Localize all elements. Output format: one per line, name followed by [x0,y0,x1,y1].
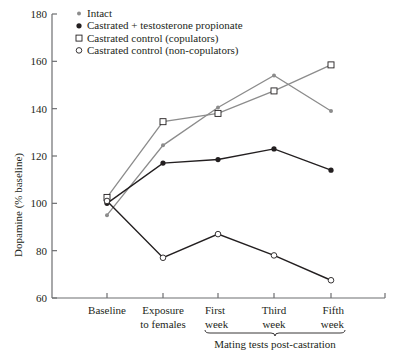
x-tick-label: Fifth [323,304,345,316]
y-axis: 6080100120140160180 [31,8,58,304]
legend-item: Castrated control (copulators) [76,32,219,45]
legend-label: Castrated control (copulators) [87,32,219,45]
legend-item: Castrated + testosterone propionate [76,19,242,31]
x-tick-label: week [262,318,286,330]
x-tick-label: Baseline [88,304,126,316]
x-tick-label: Third [262,304,287,316]
brace-icon [205,330,345,336]
y-tick-label: 140 [31,103,48,115]
x-tick-label: to females [140,318,186,330]
series-line [107,65,331,198]
filled-circle-marker [76,23,81,28]
open-square-marker [271,88,277,94]
x-tick-label: First [205,304,225,316]
open-square-marker [215,110,221,116]
open-square-marker [328,62,334,68]
open-square-marker [160,119,166,125]
gray-dot-marker [216,105,220,109]
legend-label: Castrated control (non-copulators) [87,44,239,57]
open-circle-marker [215,231,221,237]
open-square-marker [76,35,82,41]
open-circle-marker [76,48,82,54]
legend: IntactCastrated + testosterone propionat… [76,7,243,57]
x-axis-bracket: Mating tests post-castration [205,330,345,350]
series-line [107,149,331,203]
gray-dot-marker [105,213,109,217]
open-circle-marker [328,277,334,283]
y-tick-label: 60 [36,292,48,304]
y-tick-label: 180 [31,8,48,20]
x-axis: BaselineExposureto femalesFirstweekThird… [52,293,385,330]
legend-item: Castrated control (non-copulators) [76,44,239,57]
x-tick-label: week [321,318,345,330]
filled-circle-marker [328,168,333,173]
legend-label: Castrated + testosterone propionate [87,19,243,31]
x-tick-label: week [205,318,229,330]
x-tick-label: Exposure [142,304,184,316]
legend-label: Intact [87,7,112,19]
open-circle-marker [104,198,110,204]
series-line [107,201,331,280]
y-tick-label: 120 [31,150,48,162]
legend-item: Intact [77,7,112,19]
gray-dot-marker [272,74,276,78]
open-circle-marker [271,253,277,259]
gray-dot-marker [329,109,333,113]
filled-circle-marker [271,146,276,151]
series-intact [105,74,333,218]
gray-dot-marker [77,12,81,16]
gray-dot-marker [161,143,165,147]
bracket-label: Mating tests post-castration [214,338,336,350]
series-line [107,76,331,216]
open-circle-marker [160,255,166,261]
series-castrated-control-non-copulators [104,198,334,283]
line-chart: 6080100120140160180 BaselineExposureto f… [0,0,400,353]
y-axis-label: Dopamine (% baseline) [12,153,25,257]
filled-circle-marker [160,161,165,166]
series-layer [104,62,334,283]
y-tick-label: 160 [31,55,48,67]
y-tick-label: 100 [31,197,48,209]
series-castrated-control-copulators [104,62,334,201]
y-tick-label: 80 [36,245,48,257]
filled-circle-marker [215,157,220,162]
